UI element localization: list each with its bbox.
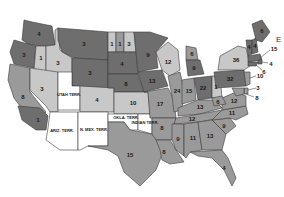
label-AL: 11 xyxy=(190,135,197,141)
label-IA: 13 xyxy=(149,78,156,84)
label-MA: 15 xyxy=(271,46,278,52)
label-AZ: ARIZ. TERR. xyxy=(50,128,74,133)
label-MO: 17 xyxy=(157,101,164,107)
label-GA: 13 xyxy=(207,133,214,139)
label-OH: 22 xyxy=(200,85,207,91)
callout-line-NJ xyxy=(250,76,256,78)
region-RI xyxy=(258,60,262,64)
edge-glyph: E xyxy=(276,35,281,44)
label-TN: 12 xyxy=(189,116,196,122)
callout-line-CT xyxy=(256,65,262,70)
label-TX: 15 xyxy=(127,152,134,158)
callout-line-DE xyxy=(248,88,256,90)
label-IT: INDIAN TERR. xyxy=(132,120,159,125)
label-RI: 4 xyxy=(269,61,273,67)
map-svg: 4 3 8 1 3 3 1 3 3 UTAH TERR. 4 ARIZ. TER… xyxy=(0,0,284,197)
label-WI: 12 xyxy=(165,59,172,65)
label-NY: 36 xyxy=(233,57,240,63)
label-UT: UTAH TERR. xyxy=(57,92,81,97)
label-IL: 24 xyxy=(174,88,181,94)
callout-line-RI xyxy=(262,62,268,63)
callout-line-MD xyxy=(246,94,254,97)
label-NJ: 10 xyxy=(257,73,264,79)
label-PA: 32 xyxy=(227,76,234,82)
label-VA: 12 xyxy=(231,98,238,104)
label-DE: 3 xyxy=(256,85,260,91)
label-IN: 15 xyxy=(186,88,193,94)
callout-line-MA xyxy=(260,50,270,58)
label-NC: 11 xyxy=(229,110,236,116)
region-FL xyxy=(190,150,236,186)
label-KY: 13 xyxy=(197,104,204,110)
us-map: 4 3 8 1 3 3 1 3 3 UTAH TERR. 4 ARIZ. TER… xyxy=(0,0,284,197)
label-MD: 8 xyxy=(255,95,259,101)
region-DE xyxy=(244,88,248,94)
label-NM: N. MEX. TERR. xyxy=(80,127,108,132)
label-KS: 10 xyxy=(130,100,137,106)
